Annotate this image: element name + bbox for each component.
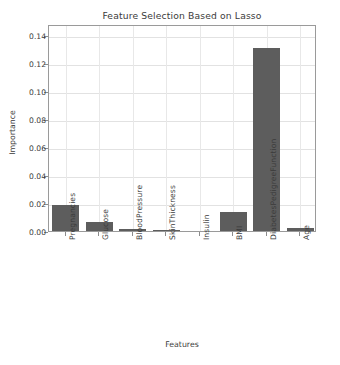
x-tick-label: DiabetesPedigreeFunction bbox=[269, 139, 278, 240]
x-tick-label: BloodPressure bbox=[135, 185, 144, 240]
x-axis-title: Features bbox=[48, 340, 316, 349]
gridline-horizontal bbox=[49, 37, 315, 38]
x-tick-mark bbox=[98, 232, 99, 236]
gridline-vertical bbox=[300, 26, 301, 231]
gridline-vertical bbox=[233, 26, 234, 231]
y-tick-label: 0.04 bbox=[6, 171, 46, 180]
x-tick-label: Glucose bbox=[101, 209, 110, 240]
lasso-feature-importance-figure: Feature Selection Based on Lasso 0.000.0… bbox=[0, 0, 340, 365]
gridline-vertical bbox=[66, 26, 67, 231]
x-tick-mark bbox=[132, 232, 133, 236]
y-tick-label: 0.14 bbox=[6, 31, 46, 40]
y-axis-title: Importance bbox=[8, 93, 17, 173]
x-tick-label: Age bbox=[302, 225, 311, 240]
x-tick-mark bbox=[199, 232, 200, 236]
y-tick-label: 0.12 bbox=[6, 59, 46, 68]
x-tick-label: BMI bbox=[235, 226, 244, 240]
gridline-vertical bbox=[133, 26, 134, 231]
x-tick-mark bbox=[299, 232, 300, 236]
x-tick-label: SkinThickness bbox=[168, 185, 177, 240]
y-tick-label: 0.00 bbox=[6, 228, 46, 237]
y-tick-label: 0.02 bbox=[6, 199, 46, 208]
x-tick-mark bbox=[266, 232, 267, 236]
gridline-vertical bbox=[200, 26, 201, 231]
x-tick-mark bbox=[65, 232, 66, 236]
x-tick-mark bbox=[232, 232, 233, 236]
x-tick-label: Pregnancies bbox=[68, 193, 77, 240]
chart-title: Feature Selection Based on Lasso bbox=[48, 10, 316, 21]
x-tick-label: Insulin bbox=[202, 214, 211, 240]
gridline-vertical bbox=[99, 26, 100, 231]
x-tick-mark bbox=[165, 232, 166, 236]
